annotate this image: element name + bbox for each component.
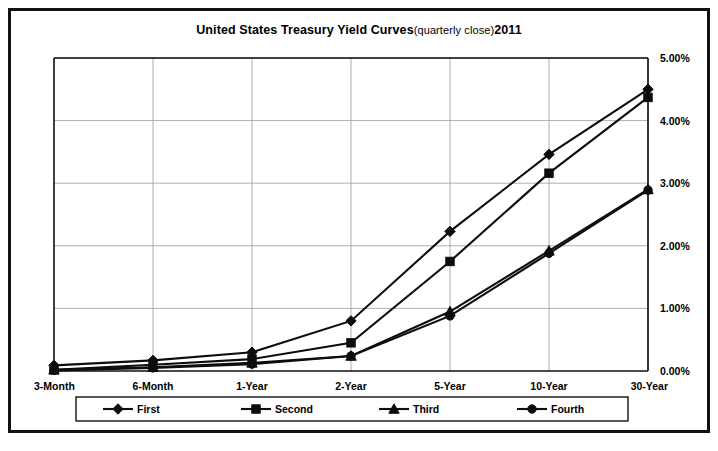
x-axis-tick-label: 6-Month — [133, 380, 174, 392]
x-axis-labels: 3-Month6-Month1-Year2-Year5-Year10-Year3… — [34, 380, 668, 392]
x-axis-tick-label: 30-Year — [631, 380, 668, 392]
marker-circle — [446, 312, 454, 320]
marker-square — [644, 93, 652, 101]
marker-square — [252, 405, 260, 413]
x-axis-tick-label: 2-Year — [335, 380, 367, 392]
legend-item-label: Third — [413, 403, 439, 415]
y-axis-tick-label: 5.00% — [660, 52, 690, 64]
marker-circle — [50, 366, 58, 374]
y-axis-tick-label: 1.00% — [660, 302, 690, 314]
x-axis-tick-label: 3-Month — [34, 380, 75, 392]
y-axis-tick-label: 0.00% — [660, 365, 690, 377]
y-axis-tick-label: 4.00% — [660, 115, 690, 127]
y-axis-labels: 0.00%1.00%2.00%3.00%4.00%5.00% — [660, 52, 690, 377]
marker-circle — [545, 249, 553, 257]
marker-square — [347, 339, 355, 347]
y-axis-tick-label: 2.00% — [660, 240, 690, 252]
chart-legend: FirstSecondThirdFourth — [76, 397, 628, 421]
x-axis-tick-label: 1-Year — [236, 380, 268, 392]
marker-circle — [347, 352, 355, 360]
x-axis-tick-label: 10-Year — [530, 380, 567, 392]
x-axis-tick-label: 5-Year — [434, 380, 466, 392]
marker-square — [446, 257, 454, 265]
marker-circle — [248, 360, 256, 368]
marker-circle — [528, 405, 536, 413]
y-axis-tick-label: 3.00% — [660, 177, 690, 189]
yield-curve-plot: 3-Month6-Month1-Year2-Year5-Year10-Year3… — [11, 11, 713, 436]
marker-circle — [644, 186, 652, 194]
chart-frame: United States Treasury Yield Curves(quar… — [8, 8, 710, 433]
legend-item-label: First — [137, 403, 160, 415]
marker-circle — [149, 364, 157, 372]
legend-item-label: Fourth — [551, 403, 584, 415]
legend-item-second[interactable]: Second — [241, 403, 313, 415]
legend-item-label: Second — [275, 403, 313, 415]
marker-square — [545, 169, 553, 177]
